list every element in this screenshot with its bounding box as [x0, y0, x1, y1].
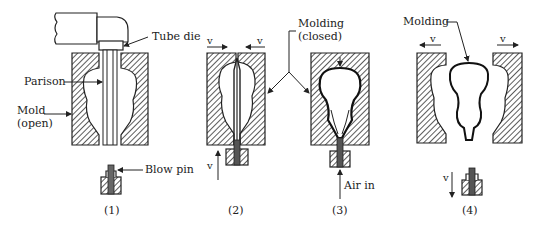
velocity-label-left-step-2: v	[207, 35, 213, 47]
step-4-caption: (4)	[462, 205, 478, 217]
parison-tube	[103, 50, 117, 145]
step-3-caption: (3)	[332, 205, 348, 217]
velocity-label-down-step-4: v	[443, 172, 449, 184]
mold-right-half-step-4	[493, 53, 522, 143]
molding-leader	[446, 22, 468, 61]
diagram-graphics	[0, 0, 538, 226]
step-2-caption: (2)	[228, 205, 244, 217]
step-1-group	[44, 13, 148, 194]
molding-closed-label-line2: (closed)	[298, 31, 342, 43]
velocity-label-right-step-2: v	[257, 35, 263, 47]
velocity-label-up-step-2: v	[207, 160, 213, 172]
mold-left-half-step-4	[417, 53, 446, 143]
mold-label-line2: (open)	[17, 118, 53, 130]
closed-mold-step-3	[311, 53, 369, 145]
step-4-group	[417, 22, 522, 197]
mold-label-line1: Mold	[17, 105, 45, 117]
parison-label: Parison	[24, 76, 66, 88]
blow-pin-label: Blow pin	[145, 164, 194, 176]
finished-molding	[450, 63, 488, 140]
blow-pin	[101, 165, 121, 194]
velocity-label-right-step-4: v	[500, 33, 506, 45]
mold-left-half	[72, 53, 99, 145]
mold-right-half	[121, 53, 148, 145]
extruder-barrel	[55, 13, 128, 50]
step-3-group	[311, 53, 369, 199]
velocity-label-left-step-4: v	[430, 33, 436, 45]
molding-label: Molding	[403, 16, 449, 28]
tube-die-label: Tube die	[152, 31, 201, 43]
molding-closed-label-line1: Molding	[298, 18, 344, 30]
step-1-caption: (1)	[104, 205, 120, 217]
air-in-label: Air in	[344, 180, 375, 192]
blow-molding-diagram: Tube die Parison Mold (open) Blow pin (1…	[0, 0, 538, 226]
closed-mold-step-2	[207, 53, 265, 145]
step-2-group	[207, 47, 265, 180]
blow-pin-step-4	[462, 168, 482, 195]
